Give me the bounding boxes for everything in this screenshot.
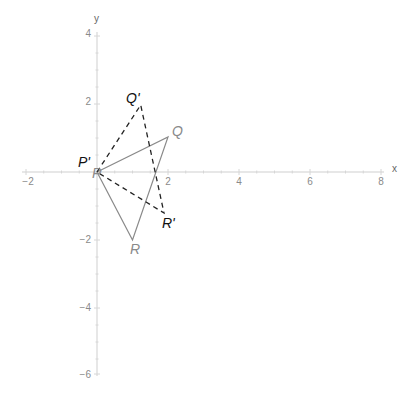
coordinate-plane: −2 2 4 6 8 4 2 −2 −4 −6 x y P Q R P' Q' … [0,0,411,398]
y-tick-label: −2 [80,234,92,245]
label-p: P [92,165,102,181]
x-tick-label: 4 [236,176,242,187]
y-axis-label: y [94,13,99,24]
y-tick-label: 4 [85,28,91,39]
triangle-pqr [97,137,168,240]
x-tick-label: −2 [22,176,34,187]
label-q-prime: Q' [126,90,141,106]
label-p-prime: P' [78,154,91,170]
label-r: R [130,241,140,257]
y-tick-label: −4 [80,302,92,313]
x-tick-label: 2 [165,176,171,187]
label-r-prime: R' [162,215,176,231]
y-tick-label: 2 [85,96,91,107]
axes: −2 2 4 6 8 4 2 −2 −4 −6 x y [22,13,397,380]
label-q: Q [172,123,183,139]
y-tick-label: −6 [80,369,92,380]
x-tick-label: 8 [378,176,384,187]
x-axis-label: x [392,163,397,174]
triangle-pqr-prime [97,105,164,213]
x-tick-label: 6 [307,176,313,187]
